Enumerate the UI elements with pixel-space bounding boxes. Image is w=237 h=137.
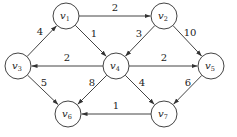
node-v7: v7 — [151, 101, 177, 127]
edge-weight-label: 2 — [161, 52, 167, 63]
node-v5: v5 — [198, 53, 224, 79]
edge-weight-label: 1 — [113, 100, 119, 111]
edge-weight-label: 2 — [112, 2, 118, 13]
node-v2: v2 — [151, 3, 177, 29]
edge-weight-label: 4 — [139, 77, 145, 88]
graph-diagram: 2143102258461 v1v2v3v4v5v6v7 — [0, 0, 237, 137]
edge-weight-label: 5 — [41, 77, 47, 88]
edge-weight-label: 1 — [91, 28, 97, 39]
edge-weight-label: 10 — [184, 27, 197, 38]
edge-weight-label: 3 — [136, 28, 142, 39]
edge-weight-label: 2 — [64, 52, 70, 63]
node-v6: v6 — [55, 101, 81, 127]
node-v4: v4 — [103, 53, 129, 79]
node-v1: v1 — [53, 3, 79, 29]
node-v3: v3 — [5, 53, 31, 79]
edge-weight-label: 6 — [185, 77, 191, 88]
edge-weight-label: 4 — [37, 26, 43, 37]
edge-weight-label: 8 — [89, 77, 95, 88]
